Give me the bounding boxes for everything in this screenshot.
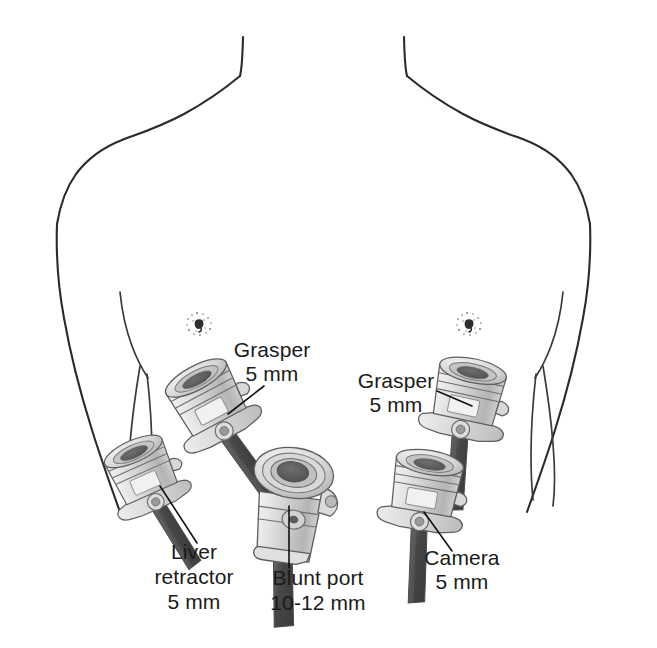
label-liver-retractor-line1: Liver [171, 540, 217, 563]
shoulder-right-line [407, 76, 590, 224]
label-grasper-left-size: 5 mm [246, 362, 299, 385]
label-grasper-right-size: 5 mm [370, 393, 423, 416]
label-liver-retractor-size: 5 mm [168, 590, 221, 613]
label-grasper-left-name: Grasper [234, 338, 311, 361]
label-liver-retractor-line2: retractor [154, 565, 233, 588]
label-camera-size: 5 mm [436, 570, 489, 593]
midline-right-line [531, 374, 536, 500]
shoulder-left-line [57, 76, 240, 224]
neck-left-line [240, 37, 243, 76]
costal-margin-left [120, 292, 148, 378]
label-blunt-port-name: Blunt port [273, 566, 364, 589]
label-blunt-port-size: 10-12 mm [270, 591, 365, 614]
port-placement-figure: Grasper 5 mm Liver retractor 5 mm Blunt … [0, 0, 657, 648]
costal-margin-right-lower [543, 366, 555, 506]
nipple-marker-left [186, 312, 212, 336]
label-camera-name: Camera [424, 546, 500, 569]
label-grasper-right-name: Grasper [358, 369, 435, 392]
costal-margin-right [535, 292, 563, 378]
nipple-marker-right [456, 312, 482, 336]
neck-right-line [404, 37, 407, 76]
flank-right-line [527, 224, 590, 512]
torso-diagram-svg: Grasper 5 mm Liver retractor 5 mm Blunt … [0, 0, 657, 648]
